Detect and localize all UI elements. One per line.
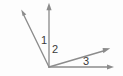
- angle-label-2: 2: [52, 44, 58, 55]
- ray-vertical: [46, 3, 51, 67]
- ray-diagonal-right: [49, 48, 110, 67]
- angle-label-3: 3: [83, 56, 89, 67]
- arrowhead-icon-diagonal-right: [103, 48, 111, 53]
- angle-rays-svg: [0, 0, 123, 76]
- angle-label-1: 1: [41, 35, 47, 46]
- arrowhead-icon-horizontal: [107, 64, 114, 69]
- geometry-diagram: 1 2 3: [0, 0, 123, 76]
- ray-horizontal: [49, 64, 114, 69]
- arrowhead-icon-upper-left: [21, 10, 26, 16]
- arrowhead-icon-vertical: [46, 3, 51, 10]
